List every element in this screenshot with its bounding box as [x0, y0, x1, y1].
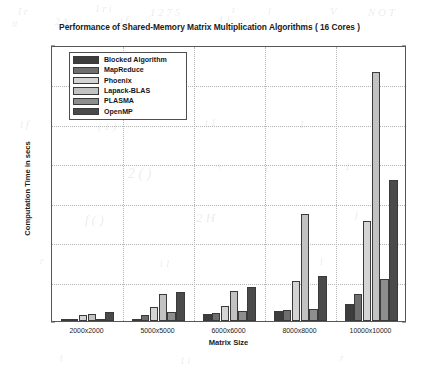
bar: [88, 314, 97, 321]
legend-item-lapack-blas: Lapack-BLAS: [73, 86, 183, 96]
gridline-x-2: [194, 47, 195, 321]
bar: [363, 221, 372, 321]
legend-swatch-icon: [73, 87, 99, 95]
bar: [309, 309, 318, 321]
bar: [96, 319, 105, 321]
bar: [203, 314, 212, 321]
legend-label: Lapack-BLAS: [104, 87, 150, 95]
bar: [301, 214, 310, 321]
legend-item-mapreduce: MapReduce: [73, 65, 183, 75]
legend-swatch-icon: [73, 98, 99, 106]
chart-legend: Blocked AlgorithmMapReducePhoenixLapack-…: [69, 52, 187, 120]
x-tick-label-6000x6000: 6000x6000: [211, 327, 245, 334]
x-tick-label-8000x8000: 8000x8000: [282, 327, 316, 334]
bar: [345, 304, 354, 321]
bar: [221, 306, 230, 321]
legend-label: MapReduce: [104, 66, 144, 74]
bar: [292, 281, 301, 321]
bar: [150, 307, 159, 321]
bar: [372, 72, 381, 321]
bar: [141, 315, 150, 321]
x-axis-label: Matrix Size: [51, 338, 406, 347]
bar: [318, 276, 327, 321]
gridline-y-200: [52, 284, 405, 285]
bar: [212, 313, 221, 321]
legend-label: OpenMP: [104, 108, 133, 116]
x-tick-label-2000x2000: 2000x2000: [69, 327, 103, 334]
legend-item-phoenix: Phoenix: [73, 76, 183, 86]
legend-item-plasma: PLASMA: [73, 96, 183, 106]
bar: [238, 311, 247, 321]
bar: [61, 319, 70, 321]
gridline-x-3: [265, 47, 266, 321]
bar: [70, 319, 79, 321]
bar: [159, 294, 168, 321]
bar: [167, 312, 176, 321]
bar: [176, 292, 185, 321]
legend-swatch-icon: [73, 67, 99, 75]
legend-swatch-icon: [73, 108, 99, 116]
bar: [79, 315, 88, 321]
bar-chart-figure: Performance of Shared-Memory Matrix Mult…: [0, 0, 423, 372]
bar: [354, 294, 363, 321]
gridline-y-600: [52, 205, 405, 206]
bar: [105, 312, 114, 321]
legend-item-openmp: OpenMP: [73, 106, 183, 116]
legend-item-blocked-algorithm: Blocked Algorithm: [73, 55, 183, 65]
gridline-y-1000: [52, 126, 405, 127]
legend-label: Phoenix: [104, 77, 132, 85]
x-tick-label-10000x10000: 10000x10000: [350, 327, 392, 334]
bar: [247, 287, 256, 321]
legend-swatch-icon: [73, 56, 99, 64]
bar: [274, 311, 283, 321]
bar: [230, 291, 239, 321]
gridline-y-800: [52, 165, 405, 166]
gridline-x-4: [336, 47, 337, 321]
bar: [283, 310, 292, 321]
legend-label: PLASMA: [104, 97, 134, 105]
bar: [132, 319, 141, 321]
x-tick-label-5000x5000: 5000x5000: [140, 327, 174, 334]
bar: [380, 279, 389, 321]
gridline-y-400: [52, 244, 405, 245]
bar: [389, 180, 398, 321]
legend-label: Blocked Algorithm: [104, 56, 167, 64]
chart-title: Performance of Shared-Memory Matrix Mult…: [0, 22, 419, 32]
legend-swatch-icon: [73, 77, 99, 85]
y-axis-label: Computation Time in secs: [23, 99, 32, 279]
